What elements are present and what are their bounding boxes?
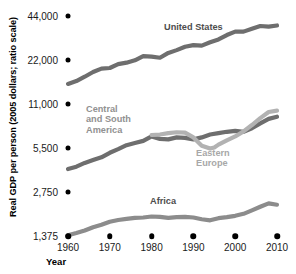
x-axis-title: Year — [46, 256, 66, 267]
x-axis-tick-dot — [107, 233, 113, 239]
series-label-central-south-america: Central and South America — [86, 104, 131, 135]
series-line-africa — [68, 203, 277, 235]
x-axis-tick-label: 2000 — [224, 242, 246, 253]
x-axis-tick-dot — [232, 233, 238, 239]
chart-root: Real GDP per person (2005 dollars; ratio… — [0, 0, 296, 274]
x-axis-tick-label: 1970 — [99, 242, 121, 253]
x-axis-tick-label: 1960 — [57, 242, 79, 253]
series-label-united-states: United States — [164, 22, 223, 32]
x-axis-tick-dot — [274, 233, 280, 239]
series-line-united-states — [68, 25, 277, 83]
x-axis-tick-label: 1990 — [182, 242, 204, 253]
x-axis-tick-dot — [65, 233, 71, 239]
plot-area — [0, 0, 296, 274]
series-line-eastern-europe — [152, 111, 277, 149]
series-label-eastern-europe: Eastern Europe — [196, 148, 230, 169]
x-axis-tick-label: 2010 — [266, 242, 288, 253]
series-label-africa: Africa — [150, 196, 176, 206]
x-axis-tick-label: 1980 — [140, 242, 162, 253]
x-axis-tick-dot — [191, 233, 197, 239]
x-axis-tick-dot — [149, 233, 155, 239]
